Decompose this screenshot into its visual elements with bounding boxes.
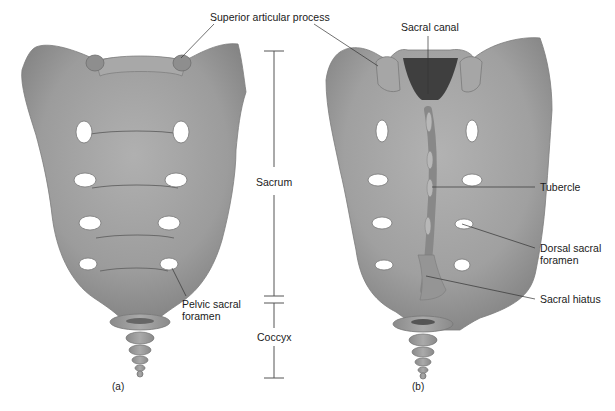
label-sacral-hiatus: Sacral hiatus	[540, 293, 601, 305]
pelvic-sacral-foramen	[79, 258, 97, 270]
sacrum-coccyx-diagram: Superior articular process Sacral canal …	[0, 0, 615, 411]
pelvic-sacral-foramen	[173, 121, 189, 143]
dorsal-sacral-foramen	[455, 219, 473, 229]
panel-tag-b: (b)	[412, 381, 424, 392]
coccyx-anterior	[110, 314, 170, 377]
label-coccyx: Coccyx	[256, 331, 292, 343]
spinous-tubercle	[427, 151, 433, 169]
pelvic-sacral-foramen	[79, 216, 101, 230]
label-pelvic-sacral-foramen-line2: foramen	[182, 310, 241, 322]
pelvic-sacral-foramen	[165, 173, 187, 187]
dorsal-sacral-foramen	[376, 120, 388, 142]
pelvic-sacral-foramen	[74, 173, 96, 187]
panel-tag-a: (a)	[112, 381, 124, 392]
label-tubercle: Tubercle	[540, 181, 580, 193]
spinous-tubercle	[426, 112, 432, 132]
label-sacrum: Sacrum	[255, 176, 293, 188]
coccyx-posterior	[393, 316, 453, 379]
dorsal-sacral-foramen	[372, 217, 392, 229]
diagram-artwork	[0, 0, 615, 411]
dorsal-sacral-foramen	[368, 174, 388, 186]
dorsal-sacral-foramen	[375, 260, 393, 270]
spinous-tubercle	[425, 217, 431, 235]
label-pelvic-sacral-foramen-line1: Pelvic sacral	[182, 298, 241, 310]
pelvic-sacral-foramen	[160, 258, 178, 270]
dorsal-sacral-foramen	[466, 120, 478, 142]
dorsal-sacral-foramen	[462, 174, 482, 186]
label-dorsal-sacral-foramen-line2: foramen	[540, 254, 601, 266]
label-dorsal-sacral-foramen: Dorsal sacral foramen	[540, 242, 601, 266]
pelvic-sacral-foramen	[76, 121, 92, 143]
dorsal-sacral-foramen	[454, 259, 470, 271]
pelvic-sacral-foramen	[158, 216, 180, 230]
superior-articular-process-right	[460, 57, 482, 92]
superior-articular-process-left	[86, 55, 104, 71]
label-sacral-canal: Sacral canal	[401, 21, 459, 33]
sacrum-anterior-view	[22, 44, 246, 377]
region-bracket	[264, 51, 284, 378]
sacrum-posterior-view	[326, 38, 552, 379]
label-superior-articular-process: Superior articular process	[210, 11, 330, 23]
superior-articular-process-left	[376, 57, 400, 92]
label-pelvic-sacral-foramen: Pelvic sacral foramen	[182, 298, 241, 322]
spinous-tubercle	[427, 179, 433, 197]
sacrum-anterior-body	[22, 44, 246, 322]
label-dorsal-sacral-foramen-line1: Dorsal sacral	[540, 242, 601, 254]
